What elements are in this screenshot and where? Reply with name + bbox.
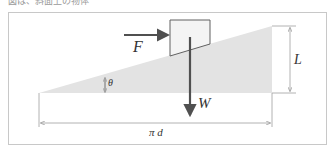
incline-diagram: F W θ L π d [0, 0, 333, 152]
label-F: F [132, 38, 143, 55]
label-L: L [293, 52, 302, 67]
label-theta: θ [108, 77, 113, 88]
label-base: π d [149, 126, 163, 138]
label-W: W [198, 95, 212, 111]
